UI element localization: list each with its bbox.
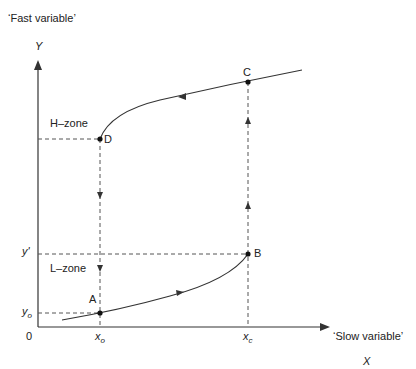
y-axis-arrow-icon — [34, 60, 42, 70]
upper-branch-curve — [100, 70, 302, 139]
l-zone-label: L–zone — [50, 262, 86, 274]
hysteresis-diagram — [0, 0, 416, 369]
point-d-label: D — [104, 133, 112, 145]
point-d — [97, 136, 102, 141]
point-c — [245, 79, 250, 84]
y-axis-symbol: Y — [35, 40, 42, 52]
point-a — [97, 310, 102, 315]
y-o-tick: yo — [22, 305, 32, 320]
arrow-down-icon — [97, 192, 103, 199]
arrow-up-icon — [245, 202, 251, 209]
h-zone-label: H–zone — [50, 117, 88, 129]
x-c-tick: xc — [243, 330, 253, 345]
point-b — [245, 251, 250, 256]
point-b-label: B — [254, 247, 261, 259]
arrow-right-icon — [176, 290, 184, 296]
x-o-tick: xo — [95, 330, 105, 345]
y-prime-tick: y' — [22, 245, 30, 257]
point-c-label: C — [243, 66, 251, 78]
arrow-left-icon — [178, 93, 186, 100]
arrow-down-icon — [97, 265, 103, 272]
point-a-label: A — [89, 293, 96, 305]
x-axis-arrow-icon — [320, 323, 330, 331]
x-axis-description: ‘Slow variable’ — [333, 330, 403, 342]
lower-branch-curve — [62, 254, 248, 320]
origin-label: 0 — [26, 330, 32, 342]
y-axis-description: ‘Fast variable’ — [8, 12, 76, 24]
arrow-up-icon — [245, 117, 251, 124]
x-axis-symbol: X — [363, 355, 370, 367]
